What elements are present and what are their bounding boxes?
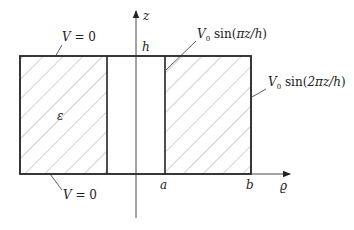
inner-boundary-label: V0 sin(πz/h) [197, 27, 267, 43]
permittivity-label: ε [57, 109, 63, 123]
rho-axis-label: ϱ [280, 179, 287, 193]
z-axis-label: z [142, 9, 150, 23]
diagram-figure: z ϱ h a b ε V = 0 V = 0 V0 sin(πz/h) V0 … [0, 0, 354, 230]
a-label: a [160, 178, 167, 192]
outer-leader-line [252, 89, 266, 97]
h-label: h [142, 40, 150, 54]
outer-boundary-label: V0 sin(2πz/h) [268, 75, 346, 91]
b-label: b [246, 178, 254, 192]
bottom-leader-line [50, 174, 62, 190]
top-boundary-label: V = 0 [62, 30, 96, 44]
left-dielectric-region [20, 56, 107, 174]
diagram-canvas: z ϱ h a b ε V = 0 V = 0 V0 sin(πz/h) V0 … [0, 0, 354, 230]
bottom-boundary-label: V = 0 [63, 188, 97, 202]
right-dielectric-region [165, 56, 251, 174]
